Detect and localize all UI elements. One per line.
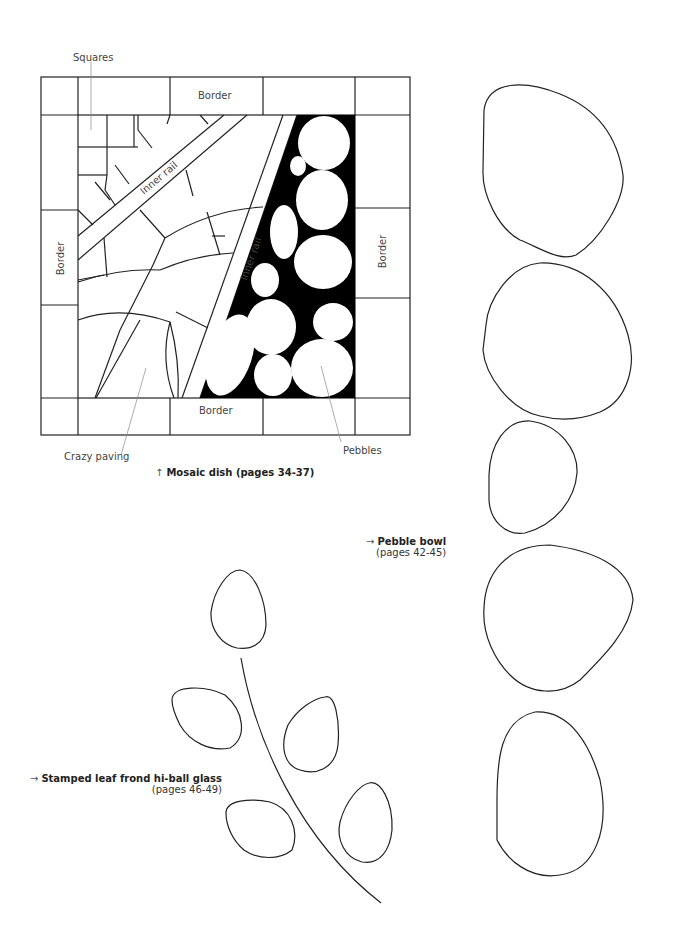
arrow-right-icon: → (30, 773, 38, 784)
pebble-1 (483, 85, 623, 257)
label-pebbles: Pebbles (343, 445, 382, 456)
caption-mosaic-text: Mosaic dish (pages 34-37) (166, 467, 314, 478)
caption-pebble-bowl-pages: (pages 42-45) (366, 547, 446, 558)
pebble-field (196, 115, 355, 402)
leaf-frond-diagram (172, 570, 392, 903)
label-squares: Squares (73, 52, 113, 63)
caption-leaf-frond-pages: (pages 46-49) (30, 784, 222, 795)
arrow-up-icon: ↑ (155, 467, 163, 478)
caption-pebble-bowl: →Pebble bowl (pages 42-45) (366, 536, 446, 558)
pebble-5 (497, 712, 603, 876)
pebble-2 (483, 263, 631, 419)
caption-mosaic-dish: ↑Mosaic dish (pages 34-37) (155, 467, 314, 478)
label-crazy-paving: Crazy paving (64, 451, 129, 462)
leaf-right-1 (284, 697, 339, 772)
pebble-4 (484, 545, 633, 691)
arrow-right-icon: → (366, 536, 374, 547)
leaf-left-2 (226, 800, 295, 857)
label-border-right: Border (377, 232, 388, 272)
caption-leaf-frond-title: Stamped leaf frond hi-ball glass (41, 773, 222, 784)
leaf-left-1 (172, 688, 241, 749)
label-border-top: Border (198, 90, 232, 101)
leaf-right-2 (339, 783, 392, 863)
label-border-left: Border (55, 239, 66, 279)
pebble-bowl-diagram (483, 85, 633, 876)
pebble-3 (489, 421, 577, 533)
label-border-bottom: Border (199, 405, 233, 416)
frond-stem (241, 658, 381, 903)
caption-leaf-frond: →Stamped leaf frond hi-ball glass (pages… (30, 773, 222, 795)
caption-pebble-bowl-title: Pebble bowl (377, 536, 446, 547)
leaf-top (211, 570, 266, 648)
